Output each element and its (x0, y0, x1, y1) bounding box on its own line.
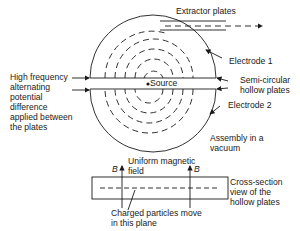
label-charged-particles-2: in this plane (111, 219, 157, 229)
label-electrode-1: Electrode 1 (229, 57, 272, 67)
electrode-1 (90, 15, 216, 78)
label-semi-circular-2: hollow plates (240, 86, 290, 96)
label-source: Source (150, 79, 177, 89)
electrode-2 (90, 89, 216, 152)
particle-spiral-path (105, 26, 262, 133)
label-field: field (128, 167, 144, 177)
label-cross-section-3: hollow plates (230, 198, 280, 208)
label-high-frequency-6: the plates (10, 123, 47, 133)
label-extractor-plates: Extractor plates (176, 7, 236, 17)
label-assembly-2: vacuum (210, 144, 240, 154)
label-b-left: B (112, 165, 118, 175)
label-b-right: B (194, 165, 200, 175)
label-electrode-2: Electrode 2 (228, 101, 271, 111)
